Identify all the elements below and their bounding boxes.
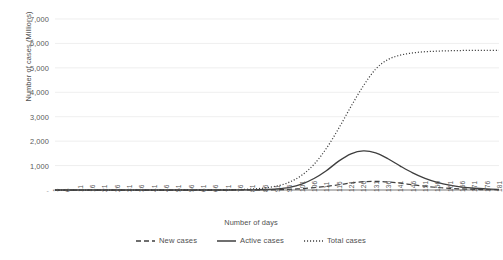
x-axis-tick: 136: [385, 181, 392, 192]
y-axis-tick: 5,000: [30, 63, 49, 72]
x-axis-tick: 116: [335, 181, 342, 192]
series-lines: [55, 50, 499, 190]
x-axis-tick: 41: [150, 184, 157, 192]
x-axis-tick: 36: [138, 184, 145, 192]
x-axis-tick: 126: [360, 181, 367, 192]
y-axis-tick: -: [47, 187, 49, 194]
legend-label: Active cases: [240, 236, 284, 245]
legend-item[interactable]: New cases: [136, 236, 197, 245]
y-axis-tick: 2,000: [30, 137, 49, 146]
plot-svg: [55, 19, 499, 190]
x-axis-tick: 11: [76, 185, 83, 192]
x-axis-title: Number of days: [0, 218, 502, 227]
legend-item[interactable]: Total cases: [304, 236, 366, 245]
x-axis-tick: 31: [126, 184, 133, 192]
x-axis-tick: 56: [187, 184, 194, 192]
x-axis-tick: 106: [311, 181, 318, 192]
y-axis-tick: 1,000: [30, 161, 49, 170]
x-axis-tick: 71: [224, 184, 231, 192]
y-axis-tick: 3,000: [30, 112, 49, 121]
x-axis-tick: 21: [101, 184, 108, 192]
x-axis-tick: 96: [286, 184, 293, 192]
legend-label: Total cases: [327, 236, 366, 245]
x-axis-tick: 16: [89, 184, 96, 192]
x-axis-tick: 51: [175, 184, 182, 192]
legend-label: New cases: [159, 236, 197, 245]
legend-line-icon: [304, 237, 323, 245]
x-axis-tick: 146: [409, 181, 416, 192]
x-axis-tick: 81: [249, 184, 256, 192]
gridlines: [55, 19, 499, 190]
plot-area: [55, 19, 499, 190]
x-axis-tick: 101: [298, 181, 305, 192]
x-axis-tick: 166: [459, 181, 466, 192]
x-axis-tick: 61: [200, 184, 207, 192]
x-axis-tick: 91: [274, 184, 281, 192]
x-axis-tick: 181: [496, 181, 503, 192]
x-axis-tick: 26: [113, 184, 120, 192]
x-axis-tick-labels: 1611162126313641465156616671768186919610…: [55, 192, 499, 218]
series-line: [55, 50, 499, 190]
x-axis-tick: 46: [163, 184, 170, 192]
legend-line-icon: [217, 237, 236, 245]
x-axis-tick: 6: [64, 188, 71, 192]
x-axis-tick: 86: [261, 184, 268, 192]
x-axis-tick: 141: [397, 181, 404, 192]
x-axis-tick: 76: [237, 184, 244, 192]
x-axis-tick: 156: [434, 181, 441, 192]
x-axis-tick: 121: [348, 181, 355, 192]
legend-item[interactable]: Active cases: [217, 236, 284, 245]
x-axis-tick: 161: [446, 181, 453, 192]
x-axis-tick: 111: [323, 182, 330, 192]
x-axis-tick: 171: [471, 181, 478, 192]
x-axis-tick: 151: [422, 181, 429, 192]
y-axis-tick: 4,000: [30, 88, 49, 97]
x-axis-tick: 176: [483, 181, 490, 192]
legend-line-icon: [136, 237, 155, 245]
y-axis-tick: 6,000: [30, 39, 49, 48]
y-axis-tick-labels: 7,0006,0005,0004,0003,0002,0001,000-: [0, 0, 55, 200]
y-axis-tick: 7,000: [30, 15, 49, 24]
x-axis-tick: 1: [52, 188, 59, 192]
chart-legend: New casesActive casesTotal cases: [0, 236, 502, 245]
x-axis-tick: 66: [212, 184, 219, 192]
x-axis-tick: 131: [372, 181, 379, 192]
